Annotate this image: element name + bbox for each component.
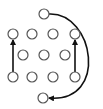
nodes-group [8,9,80,103]
node-circle-r2c1 [18,50,28,60]
node-circle-r1c3 [48,29,58,39]
node-circle-r2c3 [60,50,70,60]
node-circle-r1c4 [70,29,80,39]
node-circle-r2c2 [39,50,49,60]
node-circle-r3c2 [27,72,37,82]
node-circle-top [39,9,49,19]
node-circle-bottom [38,93,48,103]
node-circle-r3c4 [70,72,80,82]
node-circle-r3c3 [48,72,58,82]
node-circle-r1c2 [27,29,37,39]
node-circle-r1c1 [8,29,18,39]
node-circle-r3c1 [8,72,18,82]
node-diagram [0,0,103,109]
